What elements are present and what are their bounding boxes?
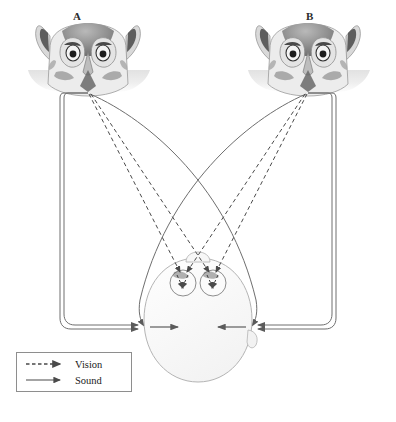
legend-item-sound: Sound bbox=[24, 373, 102, 387]
owl-b-label: B bbox=[306, 10, 314, 22]
legend-vision-label: Vision bbox=[75, 359, 102, 370]
legend-item-vision: Vision bbox=[24, 357, 102, 371]
owl-a-illustration bbox=[28, 23, 150, 96]
listener-head bbox=[144, 252, 257, 382]
legend-sound-label: Sound bbox=[75, 375, 102, 386]
legend-vision-swatch bbox=[24, 358, 70, 370]
vision-rays bbox=[89, 94, 307, 272]
legend-box: Vision Sound bbox=[16, 352, 132, 392]
owl-a-label: A bbox=[73, 10, 81, 22]
diagram-canvas: A B Vision Soun bbox=[0, 0, 396, 422]
owl-b-illustration bbox=[248, 23, 370, 96]
legend-sound-swatch bbox=[24, 374, 70, 386]
